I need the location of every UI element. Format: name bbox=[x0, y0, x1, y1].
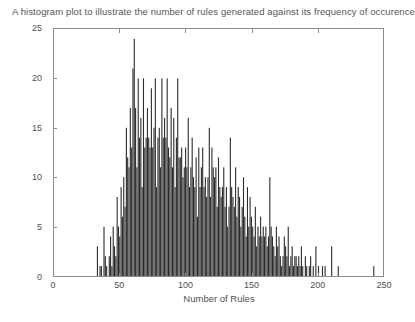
histogram-bar bbox=[138, 78, 139, 276]
histogram-bar bbox=[239, 197, 240, 276]
histogram-bar bbox=[122, 217, 123, 276]
histogram-bar bbox=[231, 187, 232, 276]
y-tick-mark bbox=[53, 78, 57, 79]
histogram-bar bbox=[153, 128, 154, 276]
histogram-bar bbox=[125, 207, 126, 276]
histogram-bar bbox=[240, 227, 241, 276]
histogram-bar bbox=[300, 266, 301, 276]
histogram-bar bbox=[106, 266, 107, 276]
histogram-bar bbox=[111, 266, 112, 276]
histogram-bar bbox=[168, 148, 169, 276]
histogram-bar bbox=[232, 197, 233, 276]
histogram-bar bbox=[261, 236, 262, 276]
histogram-bar bbox=[180, 157, 181, 276]
histogram-bar bbox=[281, 266, 282, 276]
histogram-bar bbox=[175, 187, 176, 276]
histogram-bar bbox=[297, 266, 298, 276]
histogram-bar bbox=[167, 78, 168, 276]
histogram-bar bbox=[121, 187, 122, 276]
histogram-bar bbox=[338, 266, 339, 276]
histogram-bar bbox=[218, 157, 219, 276]
histogram-bar bbox=[176, 138, 177, 276]
histogram-bar bbox=[267, 246, 268, 276]
histogram-bar bbox=[196, 157, 197, 276]
x-tick-label: 250 bbox=[376, 280, 391, 290]
histogram-bar bbox=[288, 227, 289, 276]
histogram-bar bbox=[322, 266, 323, 276]
histogram-bar bbox=[253, 236, 254, 276]
histogram-bar bbox=[331, 246, 332, 276]
histogram-bar bbox=[264, 236, 265, 276]
histogram-bar bbox=[248, 227, 249, 276]
x-tick-mark bbox=[185, 273, 186, 277]
histogram-bar bbox=[252, 227, 253, 276]
histogram-bar bbox=[309, 266, 310, 276]
histogram-bar bbox=[105, 256, 106, 276]
histogram-bar bbox=[246, 236, 247, 276]
histogram-bar bbox=[140, 118, 141, 276]
y-tick-mark bbox=[53, 128, 57, 129]
histogram-bar bbox=[215, 167, 216, 276]
histogram-bar bbox=[197, 217, 198, 276]
histogram-bar bbox=[225, 207, 226, 276]
x-tick-mark-top bbox=[252, 29, 253, 33]
histogram-bar bbox=[143, 78, 144, 276]
histogram-bar bbox=[148, 138, 149, 276]
histogram-bar bbox=[100, 266, 101, 276]
histogram-bar bbox=[155, 78, 156, 276]
histogram-bar bbox=[192, 138, 193, 276]
histogram-bar bbox=[126, 128, 127, 276]
histogram-bar bbox=[139, 138, 140, 276]
histogram-bar bbox=[226, 187, 227, 276]
histogram-bar bbox=[109, 256, 110, 276]
histogram-bar bbox=[273, 246, 274, 276]
histogram-bar bbox=[136, 167, 137, 276]
histogram-bar bbox=[310, 256, 311, 276]
histogram-bar bbox=[292, 246, 293, 276]
histogram-bar bbox=[146, 138, 147, 276]
histogram-bar bbox=[164, 118, 165, 276]
histogram-bar bbox=[118, 227, 119, 276]
histogram-bar bbox=[173, 118, 174, 276]
histogram-bar bbox=[219, 187, 220, 276]
histogram-bar bbox=[222, 187, 223, 276]
histogram-bar bbox=[260, 217, 261, 276]
histogram-bar bbox=[217, 207, 218, 276]
histogram-bar bbox=[135, 108, 136, 276]
histogram-bar bbox=[244, 217, 245, 276]
histogram-bar bbox=[277, 246, 278, 276]
y-tick-label: 25 bbox=[8, 23, 42, 33]
histogram-bar bbox=[189, 187, 190, 276]
histogram-bar bbox=[117, 197, 118, 276]
histogram-bar bbox=[250, 197, 251, 276]
histogram-bar bbox=[207, 177, 208, 276]
histogram-bar bbox=[373, 266, 374, 276]
histogram-bar bbox=[263, 227, 264, 276]
histogram-bar bbox=[203, 187, 204, 276]
histogram-bar bbox=[227, 227, 228, 276]
histogram-bar bbox=[290, 256, 291, 276]
histogram-bar bbox=[298, 256, 299, 276]
histogram-bar bbox=[305, 256, 306, 276]
histogram-bar bbox=[103, 227, 104, 276]
histogram-bar bbox=[282, 256, 283, 276]
histogram-bar bbox=[178, 157, 179, 276]
histogram-bar bbox=[293, 266, 294, 276]
histogram-bar bbox=[209, 128, 210, 276]
histogram-bar bbox=[214, 177, 215, 276]
histogram-bar bbox=[110, 236, 111, 276]
histogram-bar bbox=[256, 246, 257, 276]
histogram-bar bbox=[243, 177, 244, 276]
histogram-bar bbox=[271, 227, 272, 276]
histogram-bar bbox=[206, 197, 207, 276]
histogram-bar bbox=[147, 108, 148, 276]
histogram-bar bbox=[313, 266, 314, 276]
histogram-bar bbox=[306, 266, 307, 276]
histogram-bar bbox=[161, 78, 162, 276]
x-tick-label: 200 bbox=[310, 280, 325, 290]
histogram-bar bbox=[289, 266, 290, 276]
x-tick-mark-top bbox=[119, 29, 120, 33]
histogram-bar bbox=[123, 177, 124, 276]
histogram-bar bbox=[131, 148, 132, 276]
